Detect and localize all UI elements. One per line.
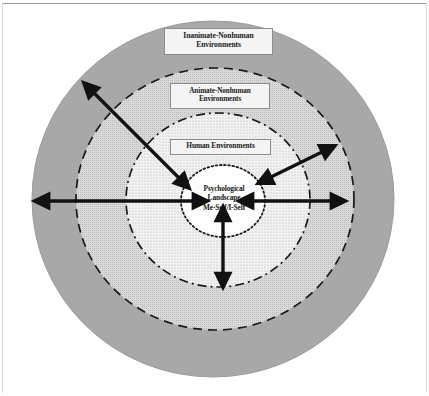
- center-line-2: Landscape: [177, 193, 271, 202]
- page-canvas: Inanimate-Nonhuman Environments Animate-…: [0, 0, 429, 396]
- label-animate-nonhuman-environments: Animate-Nonhuman Environments: [170, 83, 270, 109]
- center-line-3: Me-Self/I-Self: [177, 203, 271, 212]
- label-inanimate-nonhuman-environments: Inanimate-Nonhuman Environments: [164, 28, 273, 55]
- label-human-line1: Human Environments: [186, 141, 255, 150]
- label-inanimate-line1: Inanimate-Nonhuman: [183, 31, 253, 40]
- label-animate-line2: Environments: [199, 95, 241, 103]
- label-human-environments: Human Environments: [170, 139, 271, 155]
- center-line-1: Psychological: [177, 184, 271, 193]
- label-psychological-landscape: Psychological Landscape Me-Self/I-Self: [177, 184, 271, 212]
- label-animate-line1: Animate-Nonhuman: [189, 87, 251, 95]
- label-inanimate-line2: Environments: [196, 40, 241, 49]
